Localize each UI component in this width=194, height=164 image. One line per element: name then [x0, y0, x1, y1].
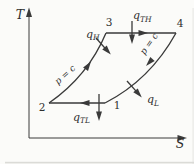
flow-arrow-3-4-icon	[139, 30, 149, 36]
scan-edge-bottom	[5, 162, 194, 164]
heat-label-qtl: qTL	[73, 111, 90, 126]
heat-label-ql: qL	[147, 93, 159, 108]
figure-canvas: T S 1 2 3 4 p = c p = c qH qTH qL	[0, 0, 194, 164]
scan-edge-right	[192, 8, 193, 164]
flow-arrow-1-2-icon	[80, 100, 90, 106]
isobar-left-curve-2-3	[49, 33, 106, 103]
ts-diagram-svg: T S 1 2 3 4 p = c p = c qH qTH qL	[0, 0, 194, 164]
state-point-1-label: 1	[114, 99, 121, 111]
temperature-axis-label: T	[16, 7, 26, 22]
state-point-3-label: 3	[106, 16, 113, 28]
entropy-axis-label: S	[176, 136, 185, 151]
heat-label-qh: qH	[86, 28, 100, 43]
heat-label-qth: qTH	[133, 9, 152, 24]
heat-arrow-qth-head-icon	[129, 35, 135, 45]
isobar-right-curve-4-1	[105, 33, 176, 103]
heat-arrow-qtl-head-icon	[96, 112, 102, 122]
state-point-2-label: 2	[39, 101, 46, 113]
state-point-4-label: 4	[177, 17, 184, 29]
temperature-axis-arrow-icon	[26, 8, 32, 18]
